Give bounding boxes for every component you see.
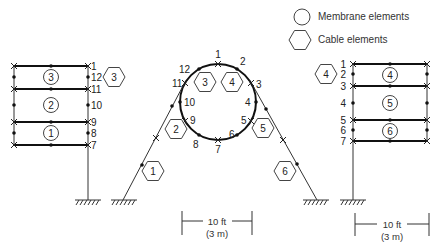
scale-label-imperial: 10 ft	[208, 216, 227, 227]
right-frame: 1 2 3 4 5 6 7 4 5 6 4	[315, 59, 430, 205]
ground-hatch-icon	[341, 200, 364, 205]
cable-id: 4	[323, 69, 329, 80]
node-label: 7	[340, 136, 346, 147]
scale-label-metric: (3 m)	[206, 228, 228, 239]
node-label: 10	[91, 100, 103, 111]
cable-id: 6	[282, 166, 288, 177]
cable-id: 3	[111, 72, 117, 83]
node-label: 1	[215, 49, 221, 60]
scale-bar-right: 10 ft (3 m)	[355, 213, 429, 242]
scale-bar-center: 10 ft (3 m)	[182, 211, 252, 239]
node-label: 2	[340, 69, 346, 80]
cable-id: 5	[260, 123, 266, 134]
legend-cable-label: Cable elements	[318, 34, 387, 45]
node-label: 10	[184, 97, 196, 108]
diagram-canvas: Membrane elements Cable elements 1 12 11…	[0, 0, 439, 249]
node-label: 9	[91, 117, 97, 128]
ground-hatch-icon	[112, 200, 135, 205]
node-label: 6	[229, 129, 235, 140]
node-label: 12	[179, 64, 191, 75]
node-label: 7	[215, 144, 221, 155]
ground-hatch-icon	[76, 200, 99, 205]
cable-legend-icon	[289, 31, 311, 50]
left-frame: 1 12 11 10 9 8 7 3 2 1 3	[11, 61, 125, 205]
scale-label-metric: (3 m)	[381, 231, 403, 242]
node-label: 5	[241, 115, 247, 126]
node-label: 4	[245, 97, 251, 108]
node-label: 2	[240, 56, 246, 67]
membrane-id: 3	[48, 72, 54, 83]
membrane-legend-icon	[294, 9, 310, 25]
node-label: 3	[256, 79, 262, 90]
legend: Membrane elements Cable elements	[289, 9, 409, 50]
cable-id: 3	[202, 77, 208, 88]
node-label: 6	[340, 125, 346, 136]
node-label: 1	[91, 61, 97, 72]
membrane-id: 5	[387, 98, 393, 109]
node-label: 8	[193, 139, 199, 150]
center-frame: 1 2 3 4 5 6 7 8 9 10 11 12 1 2 3 4 5 6	[111, 49, 329, 205]
legend-membrane-label: Membrane elements	[318, 11, 409, 22]
node-label: 11	[172, 78, 183, 89]
ground-hatch-icon	[304, 200, 327, 205]
cable-id: 1	[150, 166, 156, 177]
node-label: 11	[91, 84, 102, 95]
scale-label-imperial: 10 ft	[383, 219, 402, 230]
node-label: 7	[91, 140, 97, 151]
node-label: 8	[91, 128, 97, 139]
membrane-id: 6	[387, 126, 393, 137]
node-label: 3	[340, 81, 346, 92]
node-label: 12	[91, 72, 103, 83]
membrane-id: 2	[48, 100, 54, 111]
cable-id: 2	[173, 124, 179, 135]
membrane-id: 4	[387, 70, 393, 81]
membrane-id: 1	[48, 128, 54, 139]
node-label: 9	[190, 115, 196, 126]
node-label: 4	[340, 98, 346, 109]
cable-id: 4	[229, 77, 235, 88]
